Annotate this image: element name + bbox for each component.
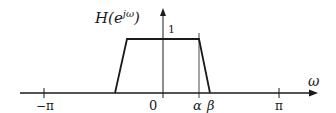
tick-label-zero: 0 [149, 98, 157, 113]
x-axis-label: ω [308, 73, 320, 89]
frequency-response-diagram: H(ejω) 1 ω −π 0 α β π [0, 0, 336, 113]
tick-label-pi: π [275, 99, 283, 113]
omega-axis-arrow-icon [309, 90, 318, 97]
magnitude-axis-arrow-icon [160, 8, 166, 16]
tick-label-beta: β [206, 98, 215, 113]
tick-label-neg-pi: −π [36, 99, 54, 113]
peak-label: 1 [168, 23, 175, 36]
y-axis-label: H(ejω) [94, 8, 140, 27]
tick-label-alpha: α [193, 98, 202, 113]
